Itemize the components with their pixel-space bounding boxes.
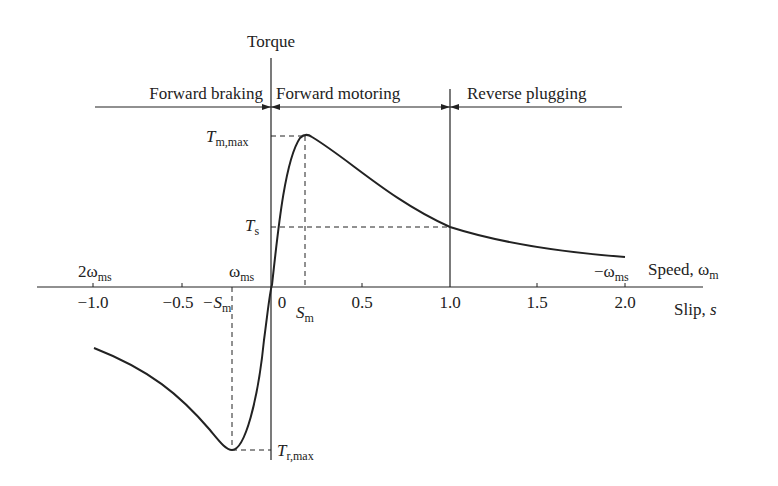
- region-label-forward-motoring: Forward motoring: [276, 84, 401, 103]
- slip-axis-label: Slip, s: [674, 300, 717, 319]
- dashed-guides: [232, 136, 450, 450]
- region-label-reverse-plugging: Reverse plugging: [467, 84, 587, 103]
- tick-label: 1.5: [526, 293, 547, 312]
- speed-neg-wms-label: −ωms: [594, 262, 629, 284]
- tick-label: 0.5: [351, 293, 372, 312]
- speed-axis-label: Speed, ωm: [648, 260, 719, 282]
- tick-label: 2.0: [614, 293, 635, 312]
- y-axis-label: Torque: [247, 32, 295, 51]
- region-indicators: [95, 89, 622, 287]
- tick-label: −1.0: [78, 293, 109, 312]
- tick-label: −0.5: [163, 293, 194, 312]
- s-m-label: Sm: [296, 303, 315, 325]
- t-s-label: Ts: [245, 216, 259, 238]
- tick-label: 1.0: [439, 293, 460, 312]
- speed-wms-label: ωms: [229, 262, 255, 284]
- region-label-forward-braking: Forward braking: [149, 84, 263, 103]
- neg-s-m-label: −Sm: [202, 293, 232, 315]
- t-r-max-label: Tr,max: [277, 441, 314, 463]
- torque-slip-diagram: Forward braking Forward motoring Reverse…: [0, 0, 778, 486]
- speed-2wms-label: 2ωms: [78, 262, 112, 284]
- t-m-max-label: Tm,max: [206, 127, 248, 149]
- tick-label: 0: [278, 293, 287, 312]
